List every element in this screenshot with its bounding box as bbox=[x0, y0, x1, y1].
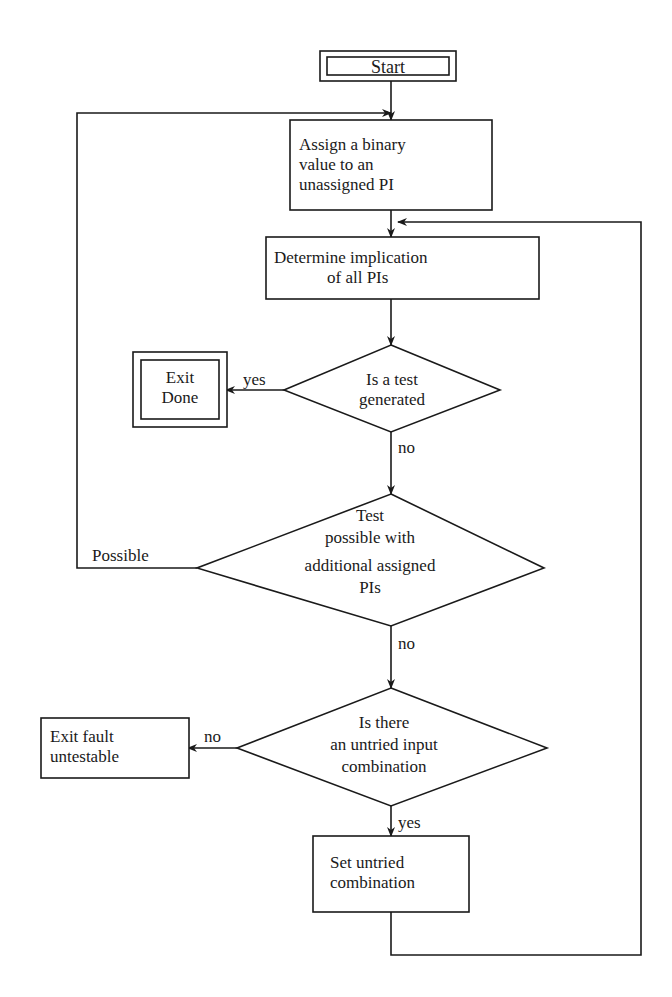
assign-line-2: value to an bbox=[299, 155, 406, 175]
edge-label-yes-set-untried: yes bbox=[398, 813, 421, 833]
exit-done-node: Exit Done bbox=[162, 368, 199, 408]
test-generated-line-2: generated bbox=[359, 390, 425, 410]
determine-node: Determine implication of all PIs bbox=[274, 248, 427, 288]
assign-node: Assign a binary value to an unassigned P… bbox=[299, 135, 406, 195]
set-untried-node: Set untried combination bbox=[330, 853, 415, 893]
edge-label-possible: Possible bbox=[92, 546, 149, 566]
exit-done-line-2: Done bbox=[162, 388, 199, 408]
test-generated-node: Is a test generated bbox=[359, 370, 425, 410]
start-label: Start bbox=[371, 57, 405, 77]
untried-line-2: an untried input bbox=[330, 734, 438, 756]
exit-untestable-node: Exit fault untestable bbox=[50, 727, 119, 767]
start-node: Start bbox=[371, 57, 405, 77]
test-possible-node: Test possible with additional assigned P… bbox=[305, 505, 436, 599]
test-generated-line-1: Is a test bbox=[359, 370, 425, 390]
test-possible-line-4: PIs bbox=[305, 577, 436, 599]
test-possible-line-3: additional assigned bbox=[305, 555, 436, 577]
test-possible-line-2: possible with bbox=[305, 527, 436, 549]
determine-line-1: Determine implication bbox=[274, 248, 427, 268]
exit-done-line-1: Exit bbox=[162, 368, 199, 388]
test-possible-line-1: Test bbox=[305, 505, 436, 527]
set-untried-line-2: combination bbox=[330, 873, 415, 893]
edge-label-no-untried: no bbox=[398, 634, 415, 654]
assign-line-1: Assign a binary bbox=[299, 135, 406, 155]
untried-line-3: combination bbox=[330, 756, 438, 778]
untried-node: Is there an untried input combination bbox=[330, 712, 438, 778]
edge-label-no-test-possible: no bbox=[398, 438, 415, 458]
edge-label-yes-exit-done: yes bbox=[243, 370, 266, 390]
determine-line-2: of all PIs bbox=[274, 268, 427, 288]
edge-label-no-untestable: no bbox=[204, 727, 221, 747]
untried-line-1: Is there bbox=[330, 712, 438, 734]
set-untried-line-1: Set untried bbox=[330, 853, 415, 873]
assign-line-3: unassigned PI bbox=[299, 175, 406, 195]
exit-untestable-line-1: Exit fault bbox=[50, 727, 119, 747]
exit-untestable-line-2: untestable bbox=[50, 747, 119, 767]
